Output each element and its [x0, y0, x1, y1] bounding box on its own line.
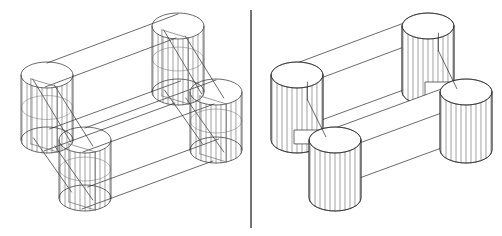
drawing-canvas: Wireframe view (all edges visible) Hidde… — [0, 0, 502, 236]
panel-divider-layer — [0, 0, 502, 236]
